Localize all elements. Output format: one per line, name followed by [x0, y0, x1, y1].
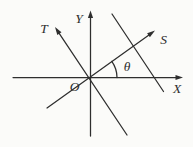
- angle-theta-label: θ: [124, 59, 131, 74]
- axes-rotation-diagram: Y T S O X θ: [0, 0, 193, 147]
- s-ray-label: S: [160, 32, 167, 47]
- x-axis-label: X: [172, 81, 182, 96]
- figure-canvas: Y T S O X θ: [0, 0, 193, 147]
- figure-background: [0, 0, 193, 147]
- origin-label: O: [70, 79, 80, 94]
